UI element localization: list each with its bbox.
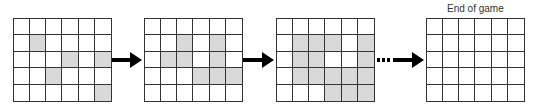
cell-empty: [508, 19, 524, 35]
cell-empty: [226, 19, 242, 35]
cell-empty: [309, 19, 325, 35]
cell-empty: [342, 35, 358, 51]
cell-empty: [30, 85, 46, 101]
cell-empty: [193, 19, 209, 35]
cell-empty: [14, 68, 30, 84]
cell-empty: [427, 35, 443, 51]
cell-empty: [277, 52, 293, 68]
cell-shaded: [193, 68, 209, 84]
cell-empty: [277, 35, 293, 51]
cell-empty: [309, 85, 325, 101]
cell-empty: [46, 52, 62, 68]
cell-empty: [210, 19, 226, 35]
cell-empty: [145, 68, 161, 84]
cell-empty: [443, 19, 459, 35]
cell-empty: [30, 68, 46, 84]
cell-shaded: [325, 85, 341, 101]
cell-shaded: [161, 52, 177, 68]
cell-empty: [277, 85, 293, 101]
cell-empty: [277, 68, 293, 84]
grid-end-of-game: [426, 18, 525, 102]
cell-empty: [95, 35, 111, 51]
cell-shaded: [30, 35, 46, 51]
cell-shaded: [358, 68, 374, 84]
cell-empty: [443, 52, 459, 68]
cell-shaded: [177, 52, 193, 68]
cell-shaded: [210, 52, 226, 68]
cell-shaded: [293, 52, 309, 68]
cell-shaded: [358, 85, 374, 101]
cell-shaded: [293, 68, 309, 84]
cell-empty: [79, 19, 95, 35]
cell-empty: [46, 19, 62, 35]
cell-empty: [325, 19, 341, 35]
cell-empty: [226, 85, 242, 101]
end-of-game-label: End of game: [447, 3, 504, 14]
cell-shaded: [342, 85, 358, 101]
cell-empty: [145, 85, 161, 101]
cell-empty: [145, 35, 161, 51]
cell-shaded: [95, 52, 111, 68]
cell-empty: [62, 85, 78, 101]
cell-shaded: [342, 68, 358, 84]
cell-empty: [325, 52, 341, 68]
cell-empty: [193, 85, 209, 101]
cell-empty: [443, 68, 459, 84]
cell-empty: [62, 68, 78, 84]
cell-empty: [342, 52, 358, 68]
grid-step-3: [276, 18, 375, 102]
cell-empty: [14, 85, 30, 101]
cell-empty: [95, 19, 111, 35]
cell-empty: [508, 68, 524, 84]
cell-empty: [492, 68, 508, 84]
cell-empty: [293, 19, 309, 35]
cell-empty: [161, 19, 177, 35]
cell-empty: [427, 85, 443, 101]
cell-empty: [358, 19, 374, 35]
cell-empty: [492, 52, 508, 68]
cell-empty: [427, 19, 443, 35]
cell-shaded: [46, 68, 62, 84]
cell-empty: [492, 85, 508, 101]
cell-empty: [14, 19, 30, 35]
cell-shaded: [309, 52, 325, 68]
cell-empty: [210, 85, 226, 101]
cell-empty: [161, 68, 177, 84]
cell-empty: [342, 19, 358, 35]
cell-empty: [508, 35, 524, 51]
cell-shaded: [358, 35, 374, 51]
cell-shaded: [293, 35, 309, 51]
cell-empty: [508, 52, 524, 68]
cell-empty: [475, 35, 491, 51]
cell-empty: [443, 35, 459, 51]
cell-empty: [95, 68, 111, 84]
cell-empty: [459, 52, 475, 68]
cell-empty: [79, 85, 95, 101]
cell-empty: [492, 35, 508, 51]
cell-shaded: [325, 35, 341, 51]
cell-empty: [30, 19, 46, 35]
cell-empty: [508, 85, 524, 101]
cell-shaded: [309, 35, 325, 51]
cell-empty: [443, 85, 459, 101]
cell-empty: [427, 52, 443, 68]
cell-shaded: [95, 85, 111, 101]
cell-empty: [79, 68, 95, 84]
cell-empty: [459, 35, 475, 51]
cell-empty: [475, 68, 491, 84]
cell-shaded: [226, 68, 242, 84]
cell-empty: [492, 19, 508, 35]
cell-empty: [193, 52, 209, 68]
cell-empty: [226, 52, 242, 68]
cell-shaded: [358, 52, 374, 68]
cell-empty: [459, 19, 475, 35]
cell-empty: [427, 68, 443, 84]
cell-empty: [145, 52, 161, 68]
cell-empty: [30, 52, 46, 68]
cell-shaded: [325, 68, 341, 84]
grid-initial: [13, 18, 112, 102]
cell-empty: [177, 85, 193, 101]
cell-empty: [161, 35, 177, 51]
cell-shaded: [177, 35, 193, 51]
grid-step-2: [144, 18, 243, 102]
